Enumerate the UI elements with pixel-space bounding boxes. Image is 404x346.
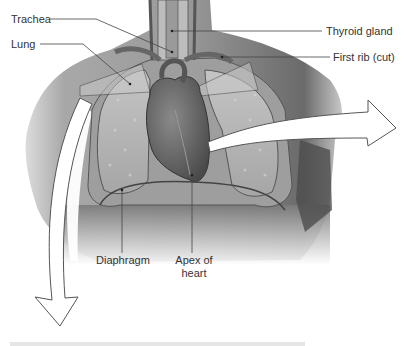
label-lung: Lung bbox=[11, 38, 35, 50]
bottom-strip bbox=[10, 342, 305, 346]
label-trachea: Trachea bbox=[11, 13, 51, 25]
label-first-rib: First rib (cut) bbox=[333, 51, 395, 63]
label-apex-line2: heart bbox=[172, 267, 216, 279]
label-diaphragm: Diaphragm bbox=[96, 254, 150, 266]
label-apex-line1: Apex of bbox=[172, 254, 216, 266]
label-thyroid-gland: Thyroid gland bbox=[326, 25, 393, 37]
